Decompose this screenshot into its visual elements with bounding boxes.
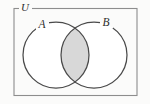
set-b-label: B [102,16,109,28]
set-a-label: A [37,18,46,30]
venn-diagram-figure: U A B [0,0,150,104]
venn-diagram-canvas: U A B [0,0,150,104]
universe-label: U [21,1,30,13]
